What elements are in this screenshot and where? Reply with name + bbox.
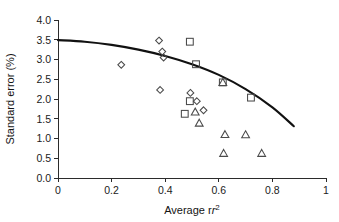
- x-tick-label: 0.6: [211, 184, 226, 196]
- y-tick-label: 3.0: [36, 53, 51, 65]
- y-tick-label: 1.0: [36, 132, 51, 144]
- data-point-diamond: [118, 61, 125, 68]
- y-tick-label: 2.0: [36, 93, 51, 105]
- plot-area: 0.00.51.01.52.02.53.03.54.000.20.40.60.8…: [0, 0, 339, 222]
- data-point-square: [181, 110, 188, 117]
- x-axis-title: Average rr2: [164, 203, 220, 216]
- data-point-square: [186, 98, 193, 105]
- y-tick-label: 0.0: [36, 172, 51, 184]
- data-point-square: [186, 38, 193, 45]
- data-point-triangle: [219, 79, 227, 86]
- data-point-triangle: [191, 108, 199, 115]
- x-tick-label: 0.4: [158, 184, 173, 196]
- data-point-diamond: [157, 87, 164, 94]
- y-tick-label: 1.5: [36, 113, 51, 125]
- trend-curve: [58, 40, 294, 126]
- y-tick-label: 3.5: [36, 34, 51, 46]
- data-point-triangle: [220, 149, 228, 156]
- x-tick-label: 0.8: [265, 184, 280, 196]
- data-point-square: [248, 94, 255, 101]
- data-point-diamond: [200, 107, 207, 114]
- data-point-triangle: [221, 131, 229, 138]
- y-tick-label: 0.5: [36, 152, 51, 164]
- data-point-triangle: [258, 149, 266, 156]
- y-axis-title: Standard error (%): [4, 53, 16, 144]
- y-tick-label: 2.5: [36, 73, 51, 85]
- scatter-chart: 0.00.51.01.52.02.53.03.54.000.20.40.60.8…: [0, 0, 339, 222]
- data-point-triangle: [195, 119, 203, 126]
- x-tick-label: 0: [55, 184, 61, 196]
- x-tick-label: 1: [323, 184, 329, 196]
- data-point-triangle: [242, 131, 250, 138]
- x-tick-label: 0.2: [104, 184, 119, 196]
- data-point-diamond: [187, 89, 194, 96]
- y-tick-label: 4.0: [36, 14, 51, 26]
- data-point-diamond: [193, 98, 200, 105]
- data-point-diamond: [156, 37, 163, 44]
